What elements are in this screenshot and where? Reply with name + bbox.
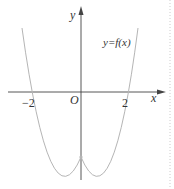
origin-label: O <box>70 93 79 107</box>
x-axis-arrow-icon <box>157 90 166 95</box>
y-axis-arrow-icon <box>79 6 84 15</box>
parabola-curve <box>22 28 138 176</box>
x-axis-label: x <box>150 91 157 105</box>
vertex-point <box>79 155 82 158</box>
curve-label: y=f(x) <box>102 36 131 49</box>
tick-label-neg-2: −2 <box>22 96 35 110</box>
tick-label-2: 2 <box>122 96 128 110</box>
y-axis-label: y <box>69 8 76 22</box>
function-graph: y x O −2 2 y=f(x) <box>0 0 174 189</box>
